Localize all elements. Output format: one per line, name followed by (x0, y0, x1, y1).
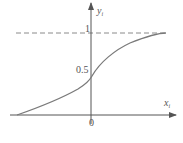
origin-label: 0 (89, 118, 94, 128)
sigmoid-figure: yi xi 1 0.5 0 (0, 0, 183, 143)
y-tick-half: 0.5 (76, 65, 89, 75)
y-tick-one: 1 (85, 24, 90, 34)
y-axis-label: yi (97, 6, 103, 17)
x-axis-label: xi (164, 98, 170, 109)
y-axis-subscript: i (101, 11, 103, 17)
x-axis-subscript: i (168, 103, 170, 109)
